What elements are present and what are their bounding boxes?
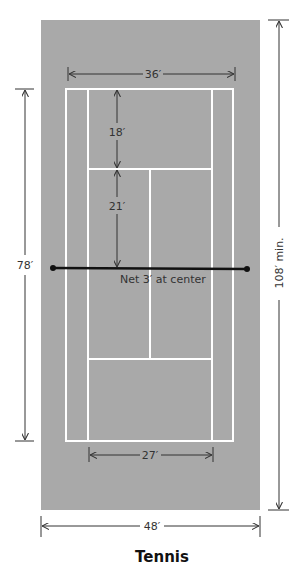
label-78ft: 78′ (17, 259, 34, 272)
label-27ft: 27′ (142, 449, 159, 462)
label-18ft: 18′ (109, 126, 126, 139)
label-108ft: 108′ min. (273, 237, 286, 288)
label-36ft: 36′ (145, 68, 162, 81)
label-21ft: 21′ (109, 200, 126, 213)
label-48ft: 48′ (144, 520, 161, 533)
tennis-court-diagram: 36′ 18′ 21′ Net 3′ at center 78′ 108′ mi… (0, 0, 303, 578)
diagram-title: Tennis (135, 548, 189, 566)
net-label: Net 3′ at center (120, 273, 206, 286)
